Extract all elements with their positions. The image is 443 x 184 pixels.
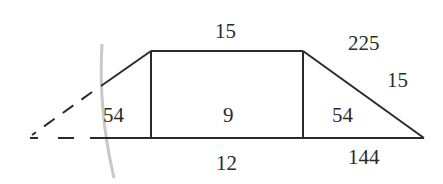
label-right-hypotenuse: 15 xyxy=(387,68,408,92)
label-left-triangle: 54 xyxy=(103,103,125,127)
label-right-bottom: 144 xyxy=(348,145,380,169)
label-right-square-area: 225 xyxy=(348,31,380,55)
label-right-triangle: 54 xyxy=(332,103,354,127)
left-slant-dashed xyxy=(32,92,92,135)
trapezoid-diagram: 15 225 15 54 9 54 12 144 xyxy=(0,0,443,184)
label-bottom-middle: 12 xyxy=(216,151,237,175)
label-center-rect: 9 xyxy=(223,103,234,127)
left-slant-solid xyxy=(101,51,151,86)
right-slant xyxy=(303,51,424,138)
label-top-edge: 15 xyxy=(215,19,236,43)
